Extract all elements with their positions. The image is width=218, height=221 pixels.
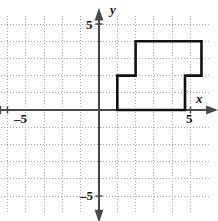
- y-axis-tick-label-positive: 5: [86, 18, 93, 31]
- plotted-polygon: [117, 41, 201, 110]
- x-axis-tick-label-negative: –5: [14, 112, 27, 125]
- y-axis-tick-label-negative: –5: [80, 189, 93, 202]
- x-axis-label: x: [196, 92, 203, 105]
- y-axis-arrow-down: [95, 210, 104, 221]
- y-axis-label: y: [110, 3, 116, 16]
- x-axis-arrow-left: [0, 106, 1, 115]
- x-axis-arrow-right: [206, 106, 218, 115]
- x-axis-tick-label-positive: 5: [186, 112, 193, 125]
- coordinate-plane-figure: 5 –5 5 –5 y x: [0, 0, 218, 221]
- y-axis-arrow-up: [95, 8, 104, 21]
- polygon-outline: [117, 41, 201, 110]
